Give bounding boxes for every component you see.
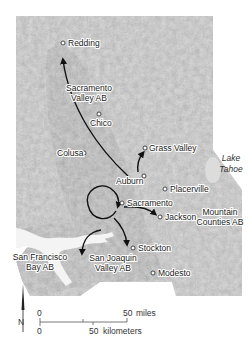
- city-label-redding: Redding: [68, 38, 100, 48]
- north-label: N: [18, 317, 24, 327]
- city-label-colusa: Colusa: [57, 148, 84, 158]
- scale-bar: 0 50 miles 0 50 kilometers: [37, 308, 156, 336]
- lake-label-line2: Tahoe: [219, 164, 243, 174]
- basin-label-sacramento-valley-line1: Sacramento: [66, 83, 112, 93]
- city-marker-chico: [97, 112, 101, 116]
- city-marker-stockton: [131, 246, 135, 250]
- basin-label-mountain-counties-line1: Mountain: [203, 207, 238, 217]
- city-label-auburn: Auburn: [116, 176, 144, 186]
- scale-km-value: 50: [89, 326, 99, 336]
- city-label-grass-valley: Grass Valley: [149, 143, 197, 153]
- scale-miles-zero: 0: [37, 308, 42, 318]
- basin-label-san-joaquin-line2: Valley AB: [95, 263, 131, 273]
- city-label-sacramento: Sacramento: [127, 198, 173, 208]
- basin-label-sf-bay-line1: San Francisco: [13, 252, 68, 262]
- city-marker-modesto: [151, 271, 155, 275]
- north-arrow-icon: [22, 284, 25, 310]
- basin-label-sf-bay-line2: Bay AB: [26, 262, 54, 272]
- lake-tahoe-label: Lake Tahoe: [219, 153, 243, 174]
- city-label-modesto: Modesto: [158, 268, 191, 278]
- city-marker-jackson: [158, 215, 162, 219]
- city-label-chico: Chico: [90, 118, 112, 128]
- basin-label-mountain-counties-line2: Counties AB: [197, 217, 244, 227]
- city-marker-grass-valley: [143, 146, 147, 150]
- lake-label-line1: Lake: [222, 153, 241, 163]
- city-marker-redding: [61, 41, 65, 45]
- basin-label-sacramento-valley-line2: Valley AB: [71, 93, 107, 103]
- scale-miles-value: 50: [123, 308, 133, 318]
- air-basin-transport-map: Redding Chico Colusa Grass Valley Auburn…: [0, 0, 252, 350]
- basin-label-san-joaquin-line1: San Joaquin: [89, 253, 137, 263]
- city-marker-sacramento: [120, 201, 124, 205]
- city-label-stockton: Stockton: [138, 243, 171, 253]
- city-marker-placerville: [163, 187, 167, 191]
- city-label-placerville: Placerville: [170, 184, 209, 194]
- scale-km-unit: kilometers: [103, 326, 142, 336]
- scale-miles-unit: miles: [136, 308, 156, 318]
- north-arrow: N: [18, 284, 25, 332]
- scale-km-zero: 0: [37, 326, 42, 336]
- city-label-jackson: Jackson: [165, 212, 196, 222]
